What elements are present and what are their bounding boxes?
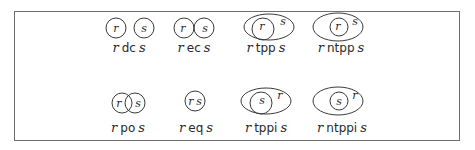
region-s-ellipse	[244, 14, 294, 40]
region-r-ellipse	[241, 88, 291, 114]
relation-caption: rpos	[111, 120, 145, 135]
relation-caption: recs	[178, 40, 211, 55]
region-label: s	[202, 22, 208, 35]
region-label: s	[141, 22, 147, 35]
relation-ec: r s recs	[174, 18, 214, 55]
region-label: s	[135, 97, 141, 110]
relation-caption: rntpps	[318, 40, 365, 55]
region-label: s	[352, 15, 358, 28]
region-label: r	[259, 20, 265, 33]
region-label: r	[180, 22, 186, 35]
relation-ntpp: r s rntpps	[313, 13, 365, 55]
region-label: r	[277, 89, 283, 102]
relation-caption: rtpps	[247, 40, 286, 55]
rcc8-diagram: r s rdcs r s recs r s rtpps r s rntpps	[0, 0, 475, 150]
relation-dc: r s rdcs	[106, 18, 154, 55]
region-label: r	[352, 89, 358, 102]
relation-tpp: r s rtpps	[244, 14, 294, 55]
relation-caption: rdcs	[112, 40, 145, 55]
region-label: s	[196, 95, 202, 108]
region-label: s	[280, 15, 286, 28]
region-r-circle	[112, 93, 132, 113]
region-label: s	[336, 95, 342, 108]
region-label: r	[113, 22, 119, 35]
region-label: r	[188, 95, 194, 108]
relation-caption: rtppis	[245, 120, 288, 135]
relation-caption: rntppis	[317, 120, 367, 135]
relation-ntppi: s r rntppis	[313, 87, 367, 135]
region-label: s	[259, 94, 265, 107]
region-label: r	[116, 97, 122, 110]
relation-tppi: s r rtppis	[241, 88, 291, 135]
relation-caption: reqs	[179, 120, 213, 135]
region-label: r	[335, 20, 341, 33]
relation-eq: r s reqs	[179, 91, 213, 135]
relation-po: r s rpos	[111, 93, 145, 135]
